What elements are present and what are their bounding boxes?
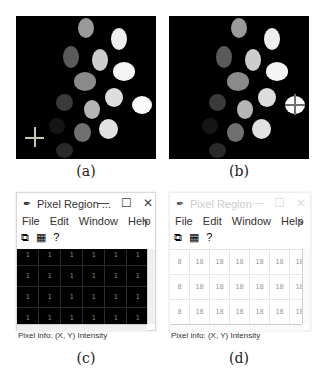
caption-d: (d) xyxy=(209,350,269,366)
pixel-cell: 8 xyxy=(170,250,190,275)
app-icon: ✒ xyxy=(176,198,184,209)
pixel-cell: 18 xyxy=(270,300,290,325)
pixel-cell: 18 xyxy=(290,275,302,300)
vertical-scrollbar[interactable] xyxy=(302,249,310,324)
grid-icon[interactable]: ▦ xyxy=(36,231,46,244)
blob xyxy=(49,118,65,134)
vertical-scrollbar[interactable] xyxy=(147,249,155,324)
maximize-button[interactable]: ☐ xyxy=(121,196,132,210)
menu-file[interactable]: File xyxy=(175,215,193,227)
dock-arrow-icon[interactable]: ➘ xyxy=(297,217,304,226)
pixel-cell: 1 xyxy=(83,249,105,266)
panel-b: (b) xyxy=(160,0,325,185)
pixel-cell: 18 xyxy=(230,300,250,325)
caption-a: (a) xyxy=(56,163,116,179)
minimize-button[interactable]: — xyxy=(97,196,109,210)
pixel-cell: 1 xyxy=(17,308,39,324)
app-icon: ✒ xyxy=(23,198,31,209)
pixel-cell: 1 xyxy=(39,249,61,266)
copy-pixel-region-icon[interactable]: ⧉ xyxy=(21,231,29,244)
menu-window[interactable]: Window xyxy=(79,215,118,227)
pixel-cell: 1 xyxy=(105,266,127,287)
blob xyxy=(92,49,108,71)
blob xyxy=(266,62,288,81)
close-button[interactable]: ✕ xyxy=(296,196,306,210)
pixel-grid: 818181818181881818181818188181818181818 xyxy=(170,249,302,325)
minimize-button[interactable]: — xyxy=(252,196,264,210)
window-title: Pixel Region xyxy=(190,198,252,210)
label-image-b[interactable] xyxy=(169,16,309,159)
panel-d: ✒ Pixel Region — ☐ ✕ File Edit Window He… xyxy=(160,185,325,372)
pixel-cell: 18 xyxy=(230,250,250,275)
menu-bar: File Edit Window Help ➘ xyxy=(17,215,155,231)
pixel-region-window-d: ✒ Pixel Region — ☐ ✕ File Edit Window He… xyxy=(169,192,311,331)
pixel-cell: 18 xyxy=(190,300,210,325)
blob xyxy=(227,72,249,91)
blob xyxy=(237,100,253,119)
crosshair-icon-vertical xyxy=(34,127,36,147)
blob xyxy=(63,46,79,68)
pixel-cell: 1 xyxy=(83,308,105,324)
pixel-cell: 18 xyxy=(250,300,270,325)
help-icon[interactable]: ? xyxy=(206,231,212,243)
close-button[interactable]: ✕ xyxy=(143,196,153,210)
pixel-cell: 1 xyxy=(127,266,147,287)
pixel-cell: 1 xyxy=(61,266,83,287)
pixel-cell: 18 xyxy=(250,250,270,275)
status-bar: Pixel info: (X, Y) Intensity xyxy=(18,331,107,340)
menu-bar: File Edit Window Help ➘ xyxy=(170,215,310,231)
pixel-cell: 1 xyxy=(127,249,147,266)
horizontal-scrollbar[interactable] xyxy=(17,324,147,331)
pixel-cell: 1 xyxy=(39,266,61,287)
blob xyxy=(264,28,280,50)
pixel-region-window-c: ✒ Pixel Region ... — ☐ ✕ File Edit Windo… xyxy=(16,192,156,331)
toolbar: ⧉ ▦ ? xyxy=(17,231,155,247)
pixel-cell: 18 xyxy=(250,275,270,300)
blob xyxy=(56,94,73,111)
dock-arrow-icon[interactable]: ➘ xyxy=(142,217,149,226)
pixel-cell: 1 xyxy=(127,308,147,324)
menu-edit[interactable]: Edit xyxy=(50,215,69,227)
blob xyxy=(74,123,91,142)
blob xyxy=(231,18,247,38)
pixel-cell: 1 xyxy=(17,266,39,287)
horizontal-scrollbar[interactable] xyxy=(170,324,302,331)
pixel-cell: 1 xyxy=(127,287,147,308)
pixel-cell: 1 xyxy=(105,287,127,308)
pixel-cell: 1 xyxy=(61,287,83,308)
label-image-a[interactable] xyxy=(16,16,156,159)
menu-edit[interactable]: Edit xyxy=(203,215,222,227)
menu-file[interactable]: File xyxy=(22,215,40,227)
pixel-cell: 1 xyxy=(83,266,105,287)
pixel-cell: 1 xyxy=(61,308,83,324)
caption-b: (b) xyxy=(209,163,269,179)
blob xyxy=(105,88,123,107)
maximize-button[interactable]: ☐ xyxy=(274,196,285,210)
pixel-cell: 18 xyxy=(290,250,302,275)
blob xyxy=(209,143,226,158)
blob xyxy=(209,94,226,111)
blob xyxy=(84,100,100,119)
pixel-cell: 18 xyxy=(210,300,230,325)
blob xyxy=(78,18,94,38)
status-bar: Pixel info: (X, Y) Intensity xyxy=(171,331,260,340)
copy-pixel-region-icon[interactable]: ⧉ xyxy=(174,231,182,244)
help-icon[interactable]: ? xyxy=(53,231,59,243)
pixel-cell: 1 xyxy=(39,287,61,308)
pixel-cell: 1 xyxy=(105,249,127,266)
pixel-cell: 1 xyxy=(17,287,39,308)
pixel-cell: 18 xyxy=(230,275,250,300)
pixel-cell: 18 xyxy=(210,275,230,300)
toolbar: ⧉ ▦ ? xyxy=(170,231,310,247)
panel-c: ✒ Pixel Region ... — ☐ ✕ File Edit Windo… xyxy=(0,185,160,372)
pixel-cell: 18 xyxy=(270,250,290,275)
grid-icon[interactable]: ▦ xyxy=(189,231,199,244)
crosshair-icon-vertical xyxy=(294,94,296,115)
blob xyxy=(113,62,135,81)
menu-window[interactable]: Window xyxy=(232,215,271,227)
pixel-cell: 8 xyxy=(170,300,190,325)
pixel-cell: 8 xyxy=(170,275,190,300)
pixel-cell: 1 xyxy=(105,308,127,324)
blob xyxy=(252,119,271,139)
title-bar: ✒ Pixel Region ... — ☐ ✕ xyxy=(17,193,155,215)
